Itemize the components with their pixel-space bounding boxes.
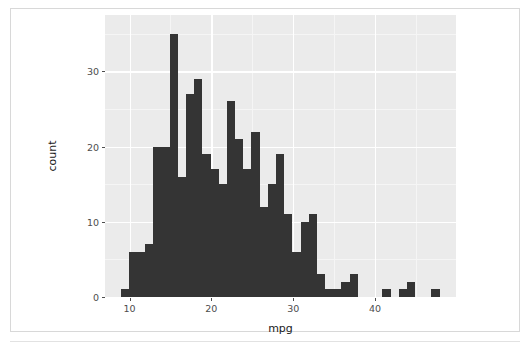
histogram-bar <box>268 184 276 297</box>
histogram-bar <box>325 289 333 297</box>
histogram-bar <box>161 147 169 297</box>
histogram-bar <box>350 274 358 297</box>
x-axis-tick-mark <box>375 298 376 301</box>
histogram-bar <box>170 34 178 297</box>
y-axis-tick-label: 30 <box>69 66 99 77</box>
histogram-bar <box>145 244 153 297</box>
histogram-bar <box>137 252 145 297</box>
x-axis-tick-label: 10 <box>123 303 135 314</box>
histogram-bar <box>317 274 325 297</box>
histogram-bar <box>251 132 259 297</box>
histogram-bar <box>399 289 407 297</box>
histogram-bar <box>227 101 235 297</box>
grid-line-minor-vertical <box>334 15 335 297</box>
histogram-bar <box>186 94 194 297</box>
histogram-bar <box>292 252 300 297</box>
histogram-bar <box>276 154 284 297</box>
histogram-bar <box>129 252 137 297</box>
screenshot-root: 0102030 10203040 mpg count <box>0 0 531 348</box>
histogram-bar <box>219 184 227 297</box>
x-axis-tick-mark <box>293 298 294 301</box>
y-axis-title: count <box>46 140 59 171</box>
grid-line-major-vertical <box>375 15 376 297</box>
y-axis-tick-mark <box>102 147 105 148</box>
x-axis-tick-label: 30 <box>287 303 299 314</box>
histogram-figure: 0102030 10203040 mpg count <box>0 0 531 348</box>
grid-line-minor-horizontal <box>105 34 456 35</box>
y-axis-tick-mark <box>102 71 105 72</box>
histogram-bar <box>333 289 341 297</box>
histogram-bar <box>284 214 292 297</box>
grid-line-major-horizontal <box>105 71 456 72</box>
histogram-bar <box>178 177 186 297</box>
y-axis-tick-mark <box>102 297 105 298</box>
histogram-bar <box>153 147 161 297</box>
y-axis-tick-label: 10 <box>69 216 99 227</box>
y-axis-tick-label: 0 <box>69 292 99 303</box>
histogram-bar <box>235 139 243 297</box>
grid-line-minor-horizontal <box>105 109 456 110</box>
grid-line-minor-vertical <box>416 15 417 297</box>
histogram-bar <box>202 154 210 297</box>
histogram-bar <box>121 289 129 297</box>
plot-panel <box>105 15 456 297</box>
histogram-bar <box>211 169 219 297</box>
x-axis-tick-mark <box>211 298 212 301</box>
x-axis-tick-label: 40 <box>369 303 381 314</box>
histogram-bar <box>341 282 349 297</box>
histogram-bar <box>309 214 317 297</box>
histogram-bar <box>301 222 309 297</box>
histogram-bar <box>431 289 439 297</box>
histogram-bar <box>260 207 268 297</box>
x-axis-title: mpg <box>105 322 456 335</box>
x-axis-tick-label: 20 <box>205 303 217 314</box>
histogram-bar <box>407 282 415 297</box>
x-axis-tick-mark <box>130 298 131 301</box>
y-axis-tick-label: 20 <box>69 141 99 152</box>
histogram-bar <box>194 79 202 297</box>
histogram-bar <box>382 289 390 297</box>
y-axis-tick-mark <box>102 222 105 223</box>
histogram-bar <box>243 169 251 297</box>
